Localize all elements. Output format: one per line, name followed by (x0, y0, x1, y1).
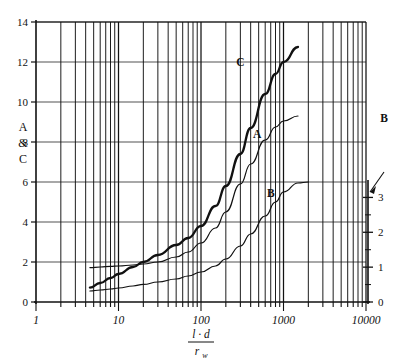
y2-tick-label: 3 (378, 191, 384, 203)
y-tick-label: 2 (23, 256, 29, 268)
x-tick-label: 10 (113, 314, 125, 326)
y2-tick-label: 2 (378, 226, 384, 238)
y-tick-label: 4 (23, 216, 29, 228)
x-tick-label: 100 (192, 314, 210, 326)
right-axis-title-B: B (380, 112, 388, 124)
bottom-axis-title-denominator: r (195, 345, 200, 357)
x-tick-label: 10000 (352, 314, 381, 326)
y-tick-label: 12 (17, 56, 28, 68)
left-axis-title-line-2: & (18, 136, 28, 150)
x-tick-label: 1 (33, 314, 39, 326)
bottom-axis-title-denominator-subscript: w (202, 351, 208, 360)
y-tick-label: 0 (23, 296, 29, 308)
x-tick-label: 1000 (272, 314, 295, 326)
left-axis-title-line-1: A (19, 120, 28, 134)
y-tick-label: 14 (17, 16, 29, 28)
curve-label-A: A (253, 128, 262, 140)
y2-tick-label: 0 (378, 296, 384, 308)
bottom-axis-title-numerator: l · d (192, 328, 210, 340)
y-tick-label: 10 (17, 96, 29, 108)
left-axis-title: A & C (18, 120, 28, 166)
y-tick-label: 6 (23, 176, 29, 188)
curve-label-C: C (236, 56, 244, 68)
chart-page: 02468101214 110100100010000 0123 CABB A … (0, 0, 402, 361)
y2-tick-label: 1 (378, 261, 384, 273)
semilog-chart: 02468101214 110100100010000 0123 CABB A … (0, 0, 402, 361)
curve-label-B: B (267, 187, 275, 199)
left-axis-title-line-3: C (19, 152, 27, 166)
